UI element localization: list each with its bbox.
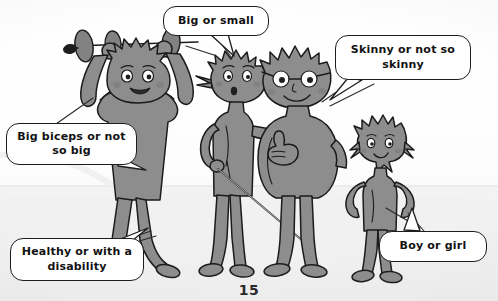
page-number: 15 — [0, 282, 498, 298]
small-head — [350, 115, 414, 172]
tail-skinny — [330, 78, 362, 100]
leader-line-biceps — [56, 98, 93, 124]
glasses-head — [260, 46, 331, 108]
speech-bubble-boy-or-girl: Boy or girl — [379, 231, 487, 262]
tail-big — [210, 34, 234, 56]
speech-bubble-healthy-or-disability: Healthy or with a disability — [10, 238, 144, 281]
speech-bubble-big-biceps: Big biceps or not so big — [6, 123, 137, 165]
barbell-left-plate — [62, 29, 95, 63]
illustration-page: .sk{fill:#8d8d8d;stroke:#1b1b1b;stroke-w… — [0, 0, 498, 301]
speech-bubble-big-or-small: Big or small — [163, 6, 269, 36]
leader-line-big-2 — [186, 46, 214, 55]
speech-bubble-skinny: Skinny or not so skinny — [335, 35, 471, 80]
